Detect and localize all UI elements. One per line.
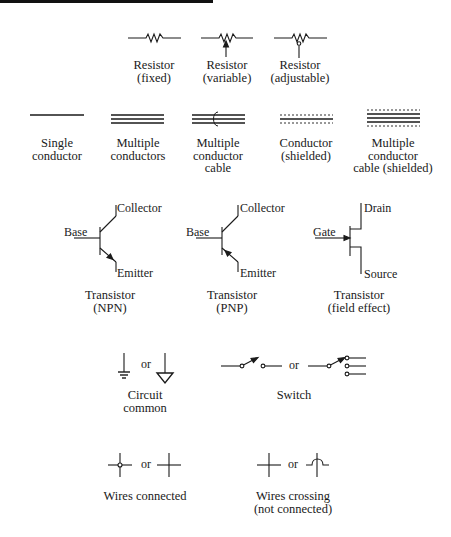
or-separator: or [141, 358, 151, 370]
resistor-fixed-icon [128, 34, 181, 42]
label-line: Single [32, 137, 82, 150]
label-line: (fixed) [134, 72, 175, 85]
label-line: Transistor [328, 289, 391, 302]
transistor-npn-label: Transistor (NPN) [85, 289, 135, 314]
label-line: cable (shielded) [353, 162, 432, 175]
label-line: Multiple [353, 137, 432, 150]
label-line: Switch [277, 389, 312, 402]
resistor-adjustable-label: Resistor (adjustable) [270, 59, 329, 84]
or-separator: or [288, 458, 298, 470]
switch-spst-icon [221, 358, 282, 368]
label-line: Resistor [134, 59, 175, 72]
ground-icon [118, 353, 130, 378]
label-line: Resistor [203, 59, 252, 72]
pnp-emitter-pin-label: Emitter [240, 267, 276, 279]
label-line: Wires crossing [254, 490, 332, 503]
or-separator: or [289, 359, 299, 371]
label-line: Multiple [193, 137, 243, 150]
wires-connected-plain-icon [157, 453, 181, 477]
multiple-conductor-cable-shielded-label: Multiple conductor cable (shielded) [353, 137, 432, 175]
multiple-conductors-icon [111, 115, 164, 123]
label-line: (field effect) [328, 302, 391, 315]
wires-connected-label: Wires connected [103, 490, 186, 503]
multiple-conductor-cable-label: Multiple conductor cable [193, 137, 243, 175]
pnp-base-pin-label: Base [186, 226, 209, 238]
multiple-conductor-cable-icon [192, 112, 245, 126]
or-separator: or [141, 458, 151, 470]
conductor-shielded-icon [280, 115, 333, 123]
multiple-conductors-label: Multiple conductors [111, 137, 166, 162]
circuit-common-label: Circuit common [123, 389, 167, 414]
wires-crossing-label: Wires crossing (not connected) [254, 490, 332, 515]
fet-gate-pin-label: Gate [313, 226, 336, 238]
label-line: Conductor [280, 137, 333, 150]
label-line: common [123, 402, 167, 415]
chassis-common-icon [157, 353, 173, 383]
npn-emitter-pin-label: Emitter [117, 267, 153, 279]
fet-drain-pin-label: Drain [364, 202, 391, 214]
label-line: (NPN) [85, 302, 135, 315]
label-line: Wires connected [103, 490, 186, 503]
resistor-fixed-label: Resistor (fixed) [134, 59, 175, 84]
label-line: (not connected) [254, 503, 332, 516]
npn-collector-pin-label: Collector [117, 202, 162, 214]
pnp-collector-pin-label: Collector [240, 202, 285, 214]
npn-base-pin-label: Base [64, 226, 87, 238]
label-line: (PNP) [207, 302, 257, 315]
fet-source-pin-label: Source [364, 268, 397, 280]
label-line: (variable) [203, 72, 252, 85]
label-line: Transistor [207, 289, 257, 302]
single-conductor-label: Single conductor [32, 137, 82, 162]
multiple-conductor-cable-shielded-icon [367, 110, 420, 126]
label-line: cable [193, 162, 243, 175]
transistor-fet-label: Transistor (field effect) [328, 289, 391, 314]
wires-crossing-hop-icon [306, 453, 329, 477]
label-line: Transistor [85, 289, 135, 302]
switch-multi-position-icon [308, 356, 366, 376]
conductor-shielded-label: Conductor (shielded) [280, 137, 333, 162]
resistor-variable-icon [201, 34, 253, 57]
wires-connected-dot-icon [108, 453, 132, 477]
label-line: (adjustable) [270, 72, 329, 85]
wires-crossing-plain-icon [257, 453, 281, 477]
resistor-adjustable-icon [274, 34, 327, 58]
resistor-variable-label: Resistor (variable) [203, 59, 252, 84]
switch-label: Switch [277, 389, 312, 402]
label-line: Resistor [270, 59, 329, 72]
label-line: (shielded) [280, 150, 333, 163]
label-line: Multiple [111, 137, 166, 150]
label-line: conductors [111, 150, 166, 163]
transistor-pnp-label: Transistor (PNP) [207, 289, 257, 314]
label-line: Circuit [123, 389, 167, 402]
label-line: conductor [32, 150, 82, 163]
